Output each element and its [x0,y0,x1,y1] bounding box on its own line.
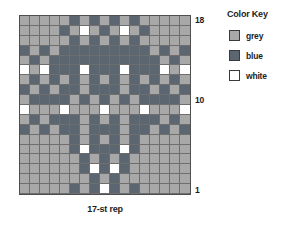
grid-cell-r7-c17 [180,125,190,135]
grid-cell-r10-c15 [160,95,170,105]
grid-cell-r8-c12 [130,115,140,125]
grid-cell-r18-c14 [150,16,160,26]
row-label-18: 18 [195,15,211,25]
grid-cell-r6-c17 [180,135,190,145]
grid-cell-r12-c7 [80,75,90,85]
grid-cell-r15-c1 [20,46,30,56]
grid-cell-r14-c15 [160,56,170,66]
grid-cell-r16-c16 [170,36,180,46]
grid-cell-r9-c11 [120,105,130,115]
grid-cell-r10-c3 [40,95,50,105]
grid-cell-r12-c1 [20,75,30,85]
grid-cell-r8-c2 [30,115,40,125]
grid-cell-r18-c8 [90,16,100,26]
grid-cell-r3-c3 [40,164,50,174]
grid-cell-r4-c12 [130,154,140,164]
grid-cell-r15-c7 [80,46,90,56]
grid-cell-r5-c1 [20,145,30,155]
grid-cell-r18-c2 [30,16,40,26]
grid-cell-r10-c7 [80,95,90,105]
grid-cell-r1-c7 [80,184,90,194]
grid-cell-r12-c16 [170,75,180,85]
grid-cell-r4-c3 [40,154,50,164]
grid-cell-r17-c14 [150,26,160,36]
grid-cell-r11-c9 [100,85,110,95]
grid-cell-r8-c6 [70,115,80,125]
grid-cell-r13-c9 [100,65,110,75]
grid-cell-r11-c14 [150,85,160,95]
grid-cell-r16-c4 [50,36,60,46]
grid-cell-r5-c17 [180,145,190,155]
grid-cell-r15-c10 [110,46,120,56]
grid-cell-r7-c10 [110,125,120,135]
grid-cell-r17-c2 [30,26,40,36]
grid-cell-r6-c11 [120,135,130,145]
grid-cell-r1-c1 [20,184,30,194]
grid-cell-r8-c4 [50,115,60,125]
grid-cell-r5-c10 [110,145,120,155]
grid-cell-r1-c13 [140,184,150,194]
grid-cell-r5-c13 [140,145,150,155]
row-label-1: 1 [195,185,211,195]
grid-cell-r4-c8 [90,154,100,164]
grid-cell-r12-c15 [160,75,170,85]
grid-cell-r14-c1 [20,56,30,66]
grid-cell-r4-c11 [120,154,130,164]
grid-cell-r15-c14 [150,46,160,56]
grid-cell-r6-c9 [100,135,110,145]
grid-cell-r18-c10 [110,16,120,26]
grid-cell-r10-c12 [130,95,140,105]
grid-cell-r3-c16 [170,164,180,174]
grid-cell-r2-c3 [40,174,50,184]
grid-cell-r5-c8 [90,145,100,155]
grid-cell-r3-c4 [50,164,60,174]
grid-cell-r9-c7 [80,105,90,115]
grid-cell-r17-c7 [80,26,90,36]
grid-cell-r10-c8 [90,95,100,105]
grid-cell-r7-c8 [90,125,100,135]
grid-cell-r5-c14 [150,145,160,155]
grid-cell-r18-c4 [50,16,60,26]
grid-cell-r18-c16 [170,16,180,26]
grid-cell-r2-c1 [20,174,30,184]
grid-cell-r17-c12 [130,26,140,36]
grid-cell-r13-c13 [140,65,150,75]
grid-cell-r15-c16 [170,46,180,56]
grid-cell-r14-c4 [50,56,60,66]
grid-cell-r5-c6 [70,145,80,155]
grid-cell-r17-c5 [60,26,70,36]
grid-cell-r11-c16 [170,85,180,95]
grid-cell-r4-c9 [100,154,110,164]
grid-cell-r17-c8 [90,26,100,36]
grid-cell-r2-c2 [30,174,40,184]
grid-cell-r18-c6 [70,16,80,26]
grid-cell-r13-c14 [150,65,160,75]
grid-cell-r7-c4 [50,125,60,135]
grid-cell-r9-c6 [70,105,80,115]
grid-cell-r7-c7 [80,125,90,135]
grid-cell-r18-c9 [100,16,110,26]
grid-cell-r9-c9 [100,105,110,115]
grid-cell-r11-c7 [80,85,90,95]
grid-cell-r6-c14 [150,135,160,145]
grid-cell-r12-c10 [110,75,120,85]
grid-cell-r15-c13 [140,46,150,56]
grid-cell-r13-c11 [120,65,130,75]
grid-cell-r8-c15 [160,115,170,125]
grid-cell-r9-c16 [170,105,180,115]
grid-cell-r13-c8 [90,65,100,75]
grid-cell-r5-c15 [160,145,170,155]
grid-cell-r2-c5 [60,174,70,184]
grid-cell-r3-c8 [90,164,100,174]
grid-cell-r9-c8 [90,105,100,115]
grid-cell-r5-c4 [50,145,60,155]
grid-cell-r11-c6 [70,85,80,95]
grid-cell-r3-c1 [20,164,30,174]
grid-cell-r1-c4 [50,184,60,194]
grid-cell-r16-c8 [90,36,100,46]
grid-cell-r6-c7 [80,135,90,145]
grid-cell-r1-c14 [150,184,160,194]
grid-cell-r3-c14 [150,164,160,174]
grid-cell-r4-c7 [80,154,90,164]
grid-cell-r16-c12 [130,36,140,46]
